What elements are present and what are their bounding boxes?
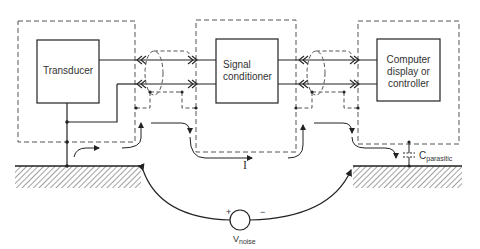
computer-label-line3: controller	[377, 78, 440, 90]
parasitic-capacitor-label: Cparasitic	[419, 150, 452, 165]
diagram-canvas	[0, 0, 480, 249]
current-flow-arrows	[74, 123, 396, 158]
noise-source-symbol	[230, 210, 250, 230]
noise-sub: noise	[239, 238, 256, 245]
signal-conditioner-label-line1: Signal	[223, 59, 283, 71]
computer-label-line2: display or	[377, 66, 440, 78]
computer-label-line1: Computer	[377, 54, 440, 66]
noise-minus-sign: −	[260, 206, 265, 218]
transducer-label: Transducer	[37, 65, 99, 77]
ground-plane-left	[15, 166, 141, 188]
ground-plane-right	[353, 166, 462, 188]
parasitic-capacitor	[403, 142, 415, 166]
signal-conditioner-label-line2: conditioner	[223, 71, 283, 83]
signal-conditioner-label: Signal conditioner	[223, 59, 283, 83]
computer-label: Computer display or controller	[377, 54, 440, 90]
ground-loop-diagram: Transducer Signal conditioner Computer d…	[0, 0, 480, 249]
parasitic-cap-sub: parasitic	[426, 155, 452, 162]
current-label: I	[243, 159, 247, 171]
noise-plus-sign: +	[226, 206, 231, 218]
noise-source-label: Vnoise	[233, 233, 256, 248]
